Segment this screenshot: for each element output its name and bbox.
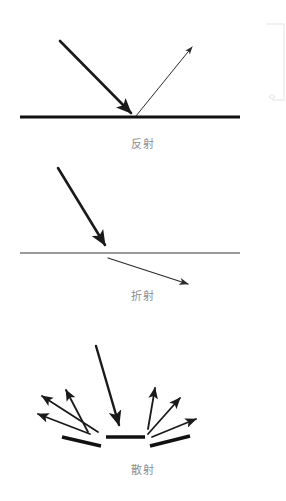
scattered-ray-4 xyxy=(148,388,155,429)
caption-scattering: 散射 xyxy=(0,465,286,476)
scan-edge-artifact xyxy=(266,24,284,100)
diagram-refraction xyxy=(20,168,240,284)
caption-refraction: 折射 xyxy=(0,291,286,302)
scattered-ray-2 xyxy=(38,414,90,434)
diagram-scattering xyxy=(38,346,196,446)
refraction-incident-ray xyxy=(58,168,105,245)
optics-figure-canvas xyxy=(0,0,286,501)
reflection-reflected-ray xyxy=(136,47,192,116)
diagram-reflection xyxy=(20,41,240,117)
rough-surface-segment-left xyxy=(62,437,101,446)
reflection-incident-ray xyxy=(60,41,131,113)
caption-reflection: 反射 xyxy=(0,139,286,150)
scattering-incident-ray xyxy=(96,346,119,425)
refraction-refracted-ray xyxy=(108,258,188,284)
rough-surface-segment-right xyxy=(150,436,190,446)
